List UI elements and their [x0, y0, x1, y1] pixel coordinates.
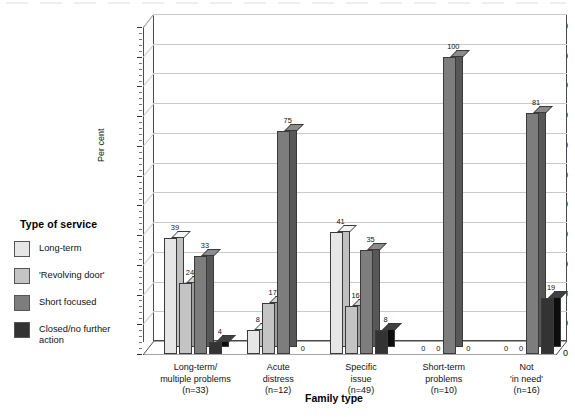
bar-face [541, 298, 554, 354]
bar-top [201, 249, 221, 256]
bar-3-1[interactable] [330, 232, 343, 354]
bar-chart: Per cent 0102030405060708090100110 39243… [100, 14, 568, 406]
bar-side [290, 124, 297, 347]
bar-4-3[interactable] [443, 57, 456, 354]
y-axis-title: Per cent [96, 128, 106, 162]
y-minor-tick [139, 51, 142, 52]
bar-2-3[interactable] [277, 131, 290, 354]
y-minor-tick [139, 211, 142, 212]
bar-5-1[interactable] [496, 354, 509, 355]
y-minor-tick [139, 199, 142, 200]
page-top-rule [6, 2, 566, 4]
y-minor-tick [139, 128, 142, 129]
y-minor-tick [139, 33, 142, 34]
legend-swatch-short-focused [14, 295, 30, 311]
y-minor-tick [139, 312, 142, 313]
bar-value-label-4-3: 100 [442, 42, 465, 51]
y-tick-mark-30 [137, 265, 142, 266]
legend-swatch-long-term [14, 241, 30, 257]
x-axis-title: Family type [100, 392, 568, 404]
bar-value-label-5-4: 19 [540, 283, 563, 292]
y-minor-tick [139, 223, 142, 224]
bar-face [330, 232, 343, 354]
y-minor-tick [139, 217, 142, 218]
bar-3-3[interactable] [360, 250, 373, 354]
bar-3-4[interactable] [375, 330, 388, 354]
y-minor-tick [139, 336, 142, 337]
bar-value-label-3-3: 35 [359, 235, 382, 244]
x-category-line: Not [472, 362, 575, 374]
y-minor-tick [139, 158, 142, 159]
bar-4-4[interactable] [458, 354, 471, 355]
y-minor-tick [139, 283, 142, 284]
bar-top [382, 323, 402, 330]
bar-2-2[interactable] [262, 303, 275, 354]
y-minor-tick [139, 39, 142, 40]
y-minor-tick [139, 110, 142, 111]
y-minor-tick [139, 289, 142, 290]
y-minor-tick [139, 152, 142, 153]
y-minor-tick [139, 75, 142, 76]
bar-top [367, 243, 387, 250]
bar-value-label-1-1: 39 [163, 223, 186, 232]
bar-1-3[interactable] [194, 256, 207, 354]
bar-4-2[interactable] [428, 354, 441, 355]
bar-top [450, 50, 470, 57]
y-minor-tick [139, 98, 142, 99]
bar-series-container: 39243348177504116358001000008119 [143, 14, 568, 355]
y-minor-tick [139, 229, 142, 230]
y-minor-tick [139, 348, 142, 349]
bar-2-1[interactable] [247, 330, 260, 354]
legend-swatch-closed-no-further-action [14, 322, 30, 338]
y-minor-tick [139, 63, 142, 64]
legend-label-long-term: Long-term [39, 241, 81, 254]
bar-face [247, 330, 260, 354]
bar-value-label-1-3: 33 [193, 241, 216, 250]
bar-5-4[interactable] [541, 298, 554, 354]
y-minor-tick [139, 253, 142, 254]
bar-2-4[interactable] [292, 354, 305, 355]
bar-5-3[interactable] [526, 113, 539, 354]
y-minor-tick [139, 193, 142, 194]
y-tick-mark-50 [137, 205, 142, 206]
bar-1-4[interactable] [209, 342, 222, 354]
bar-top [284, 124, 304, 131]
bar-value-label-3-1: 41 [329, 217, 352, 226]
bar-top [548, 291, 568, 298]
y-minor-tick [139, 259, 142, 260]
y-minor-tick [139, 81, 142, 82]
y-minor-tick [139, 271, 142, 272]
bar-3-2[interactable] [345, 306, 358, 354]
bar-face [209, 342, 222, 354]
bar-top [533, 106, 553, 113]
y-minor-tick [139, 69, 142, 70]
y-minor-tick [139, 318, 142, 319]
bar-side [554, 291, 561, 347]
bar-face [443, 57, 456, 354]
legend-label-short-focused: Short focused [39, 295, 96, 308]
bar-top [171, 231, 191, 238]
y-tick-mark-10 [137, 324, 142, 325]
bar-face [526, 113, 539, 354]
bar-face [345, 306, 358, 354]
bar-value-label-1-4: 4 [208, 327, 231, 336]
bar-face [375, 330, 388, 354]
y-minor-tick [139, 122, 142, 123]
chart-page: Type of service Long-term 'Revolving doo… [0, 0, 575, 417]
bar-1-1[interactable] [164, 238, 177, 354]
bar-1-2[interactable] [179, 283, 192, 354]
bar-face [194, 256, 207, 354]
bar-4-1[interactable] [413, 354, 426, 355]
legend-label-revolving-door: 'Revolving door' [39, 268, 105, 281]
y-minor-tick [139, 306, 142, 307]
bar-value-label-3-4: 8 [374, 315, 397, 324]
y-minor-tick [139, 330, 142, 331]
bar-5-2[interactable] [511, 354, 524, 355]
bar-face [277, 131, 290, 354]
y-minor-tick [139, 92, 142, 93]
legend-swatch-revolving-door [14, 268, 30, 284]
bar-top [216, 335, 236, 342]
bar-top [337, 225, 357, 232]
bar-face [360, 250, 373, 354]
y-minor-tick [139, 188, 142, 189]
